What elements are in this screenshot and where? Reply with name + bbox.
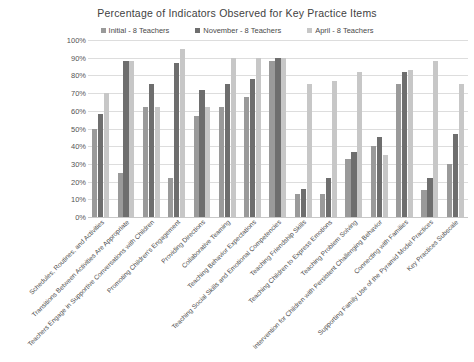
bar[interactable] [168,178,173,217]
bar[interactable] [180,49,185,217]
bar[interactable] [219,107,224,217]
bar[interactable] [244,97,249,217]
legend-item[interactable]: April - 8 Teachers [307,26,373,35]
bar-group [417,40,442,217]
legend-swatch-icon [195,28,200,33]
bar[interactable] [225,84,230,217]
bar-group [113,40,138,217]
bar-group [164,40,189,217]
y-axis: 100%90%80%70%60%50%40%30%20%10%0% [56,40,86,217]
bar[interactable] [402,72,407,217]
bar[interactable] [123,61,128,217]
bar[interactable] [427,178,432,217]
legend-label: April - 8 Teachers [315,26,373,35]
y-axis-tick-label: 0% [75,213,86,222]
y-axis-tick-label: 60% [71,106,86,115]
bar[interactable] [269,61,274,217]
bar[interactable] [408,70,413,217]
bar[interactable] [104,93,109,217]
x-axis: Schedules, Routines, and ActivitiesTrans… [88,219,468,362]
bar[interactable] [453,134,458,217]
y-axis-tick-label: 100% [67,36,86,45]
bar[interactable] [307,84,312,217]
bar-group [341,40,366,217]
bar-group [265,40,290,217]
bar[interactable] [256,58,261,217]
legend-label: Initial - 8 Teachers [109,26,170,35]
bar[interactable] [155,107,160,217]
bar[interactable] [194,116,199,217]
bar-group [316,40,341,217]
bar[interactable] [351,152,356,217]
bar-group [291,40,316,217]
legend-item[interactable]: November - 8 Teachers [195,26,281,35]
y-axis-tick-label: 20% [71,177,86,186]
bar[interactable] [174,63,179,217]
bar[interactable] [98,114,103,217]
legend-item[interactable]: Initial - 8 Teachers [101,26,170,35]
plot-area [88,40,468,217]
bar[interactable] [459,84,464,217]
bar[interactable] [371,146,376,217]
bar[interactable] [433,61,438,217]
chart-legend: Initial - 8 TeachersNovember - 8 Teacher… [0,26,474,35]
y-axis-tick-label: 40% [71,142,86,151]
x-axis-tick-label: Teachers Engage in Supportive Conversati… [27,219,156,348]
legend-swatch-icon [101,28,106,33]
bar-group [240,40,265,217]
bars-layer [88,40,468,217]
bar[interactable] [345,159,350,217]
bar[interactable] [92,129,97,218]
bar[interactable] [301,189,306,217]
bar[interactable] [320,194,325,217]
bar-group [443,40,468,217]
bar[interactable] [396,84,401,217]
bar[interactable] [129,61,134,217]
legend-swatch-icon [307,28,312,33]
gridline [88,217,468,218]
x-axis-tick-label: Key Practices Subscale [406,219,460,273]
bar[interactable] [281,58,286,217]
bar[interactable] [421,190,426,217]
bar[interactable] [118,173,123,217]
bar-group [88,40,113,217]
bar[interactable] [295,194,300,217]
bar[interactable] [149,84,154,217]
bar[interactable] [231,58,236,217]
bar-group [392,40,417,217]
bar[interactable] [357,72,362,217]
bar[interactable] [447,164,452,217]
bar[interactable] [199,90,204,217]
bar[interactable] [250,79,255,217]
bar[interactable] [332,81,337,217]
bar-chart: Percentage of Indicators Observed for Ke… [0,0,474,362]
bar-group [367,40,392,217]
y-axis-tick-label: 30% [71,159,86,168]
bar[interactable] [326,178,331,217]
y-axis-tick-label: 70% [71,89,86,98]
y-axis-tick-label: 80% [71,71,86,80]
bar[interactable] [143,107,148,217]
bar-group [139,40,164,217]
bar[interactable] [377,137,382,217]
legend-label: November - 8 Teachers [203,26,281,35]
y-axis-tick-label: 10% [71,195,86,204]
bar-group [189,40,214,217]
y-axis-tick-label: 50% [71,124,86,133]
bar-group [215,40,240,217]
chart-title: Percentage of Indicators Observed for Ke… [0,7,474,19]
y-axis-tick-label: 90% [71,53,86,62]
bar[interactable] [383,155,388,217]
x-axis-tick-label: Transitions Between Activities Are Appro… [31,219,131,319]
bar[interactable] [275,58,280,217]
bar[interactable] [205,107,210,217]
